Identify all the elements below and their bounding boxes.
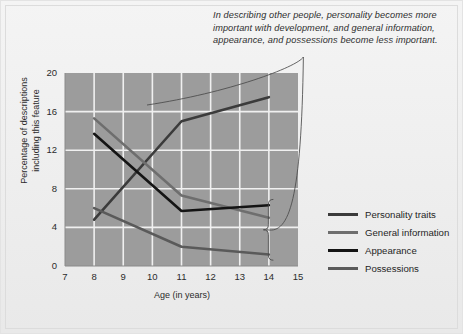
legend-item-label: General information — [365, 227, 449, 238]
figure-container: In describing other people, personality … — [0, 0, 463, 334]
chart-plot-area — [1, 1, 463, 334]
x-tick-label: 8 — [85, 271, 103, 282]
x-tick-label: 11 — [173, 271, 191, 282]
legend-item-label: Personality traits — [365, 209, 436, 220]
legend-item[interactable]: General information — [328, 223, 449, 241]
legend-color-swatch — [328, 213, 358, 216]
x-tick-label: 7 — [56, 271, 74, 282]
y-tick-label: 16 — [39, 106, 57, 117]
y-axis-label: Percentage of descriptions including thi… — [19, 66, 42, 196]
legend-item-label: Appearance — [365, 245, 417, 256]
x-tick-label: 10 — [143, 271, 161, 282]
x-tick-label: 13 — [231, 271, 249, 282]
x-axis-label: Age (in years) — [65, 290, 299, 300]
y-tick-label: 4 — [39, 221, 57, 232]
y-tick-label: 12 — [39, 144, 57, 155]
legend-color-swatch — [328, 267, 358, 270]
y-tick-label: 20 — [39, 67, 57, 78]
legend-item[interactable]: Appearance — [328, 241, 449, 259]
y-tick-label: 8 — [39, 183, 57, 194]
legend-item[interactable]: Possessions — [328, 259, 449, 277]
x-tick-label: 9 — [114, 271, 132, 282]
x-tick-label: 12 — [202, 271, 220, 282]
y-tick-label: 0 — [39, 260, 57, 271]
legend-item-label: Possessions — [365, 263, 419, 274]
legend-color-swatch — [328, 249, 358, 252]
legend-color-swatch — [328, 231, 358, 234]
legend-item[interactable]: Personality traits — [328, 205, 449, 223]
x-tick-label: 15 — [289, 271, 307, 282]
x-tick-label: 14 — [260, 271, 278, 282]
chart-legend: Personality traitsGeneral informationApp… — [328, 205, 449, 277]
